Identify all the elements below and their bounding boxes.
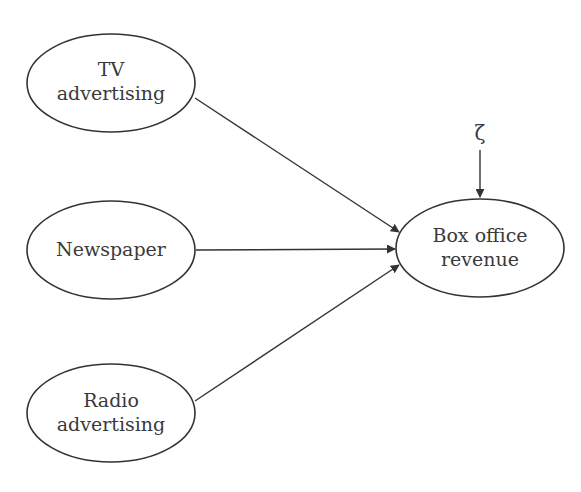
- edge-newspaper-to-box-office: [196, 249, 395, 250]
- node-tv-label-line2: advertising: [57, 82, 166, 104]
- node-box-office-label-line2: revenue: [441, 248, 519, 270]
- node-radio-label-line1: Radio: [83, 389, 139, 411]
- node-newspaper-label: Newspaper: [56, 238, 167, 260]
- path-diagram: TV advertising Newspaper Radio advertisi…: [0, 0, 581, 492]
- node-box-office-label-line1: Box office: [432, 224, 527, 246]
- edge-tv-to-box-office: [195, 98, 399, 232]
- node-radio-advertising: Radio advertising: [27, 364, 195, 462]
- node-box-office-revenue: Box office revenue: [396, 199, 564, 297]
- node-tv-advertising: TV advertising: [27, 34, 195, 132]
- node-radio-label-line2: advertising: [57, 413, 166, 435]
- edge-radio-to-box-office: [195, 265, 399, 401]
- node-newspaper: Newspaper: [27, 201, 195, 299]
- node-tv-label-line1: TV: [98, 58, 125, 80]
- error-term-zeta: ζ: [475, 121, 486, 145]
